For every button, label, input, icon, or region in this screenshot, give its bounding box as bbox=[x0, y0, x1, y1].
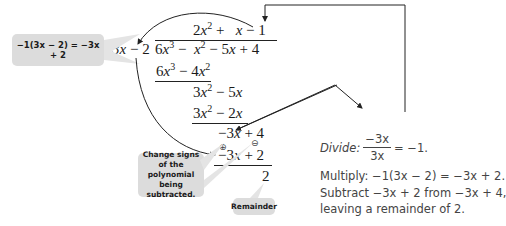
change-signs-callout: Change signs of the polynomial being sub… bbox=[138, 153, 204, 197]
divisor: 3x − 2 bbox=[112, 42, 150, 57]
subtract-note-line2: leaving a remainder of 2. bbox=[320, 202, 465, 216]
divide-result: = −1. bbox=[394, 141, 428, 155]
divide-numerator: −3x bbox=[363, 132, 391, 148]
remainder-pointer bbox=[250, 183, 264, 198]
divide-fraction: −3x 3x bbox=[363, 132, 391, 163]
dividend: 6x3 − x2 − 5x + 4 bbox=[155, 42, 259, 57]
arrow-divide-to-term bbox=[238, 85, 362, 129]
subtract-note-line1: Subtract −3x + 2 from −3x + 4, bbox=[320, 186, 506, 200]
step-line-1 bbox=[155, 81, 211, 82]
step-line-2 bbox=[192, 123, 248, 124]
divide-note: Divide: −3x 3x = −1. bbox=[320, 132, 428, 163]
remainder-callout: Remainder bbox=[233, 198, 275, 215]
step-subtract-3: −3x + 2 bbox=[218, 148, 264, 163]
multiply-callout-text: −1(3x − 2) = −3x + 2 bbox=[12, 40, 104, 60]
multiply-callout: −1(3x − 2) = −3x + 2 bbox=[12, 34, 104, 66]
step-difference-1: 3x2 − 5x bbox=[193, 85, 242, 100]
bracket-arrow-to-quotient bbox=[265, 5, 405, 112]
divide-denominator: 3x bbox=[368, 148, 386, 163]
divide-label: Divide: bbox=[320, 141, 360, 155]
step-subtract-2: 3x2 − 2x bbox=[193, 106, 242, 121]
quotient: 2x2 + x − 1 bbox=[193, 23, 266, 38]
step-subtract-1: 6x3 − 4x2 bbox=[156, 64, 210, 79]
remainder-value: 2 bbox=[262, 169, 270, 184]
remainder-callout-text: Remainder bbox=[231, 202, 277, 211]
change-signs-text: Change signs of the polynomial being sub… bbox=[138, 150, 204, 201]
multiply-note: Multiply: −1(3x − 2) = −3x + 2. bbox=[320, 169, 505, 183]
step-line-3 bbox=[214, 165, 272, 166]
